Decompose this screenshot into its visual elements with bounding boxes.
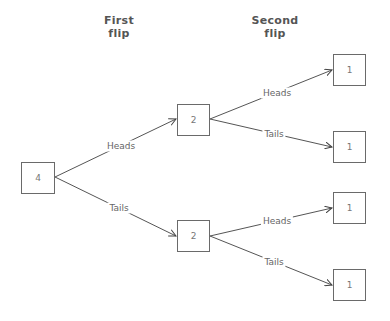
node-first-heads: 2 [177,104,210,136]
label-h-tails: Tails [262,129,285,140]
label-t-tails: Tails [262,257,285,268]
header-second-line1: Second [235,14,315,27]
label-root-heads: Heads [105,141,137,152]
header-first-line2: flip [79,27,159,40]
label-h-heads: Heads [261,88,293,99]
node-root: 4 [21,162,55,194]
label-root-tails: Tails [107,203,130,214]
tree-edges [0,0,390,321]
label-t-heads: Heads [261,216,293,227]
node-heads-heads: 1 [333,54,366,86]
node-heads-tails: 1 [333,131,366,163]
node-tails-tails: 1 [333,269,366,301]
header-first-flip: First flip [79,14,159,40]
header-second-flip: Second flip [235,14,315,40]
header-second-line2: flip [235,27,315,40]
node-tails-heads: 1 [333,192,366,224]
node-first-tails: 2 [177,220,210,252]
header-first-line1: First [79,14,159,27]
